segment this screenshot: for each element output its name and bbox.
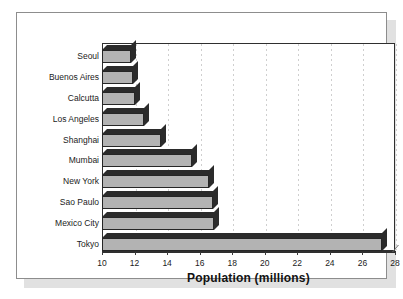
tick-label: 10 [97,258,106,268]
bar-front-face [102,238,382,251]
category-label: Calcutta [19,93,99,103]
bar-front-face [102,175,209,188]
category-label: Tokyo [19,239,99,249]
bar [102,149,192,162]
tick-mark [232,252,233,255]
bar-front-face [102,196,213,209]
bar [102,233,382,246]
bar-side-face [214,207,219,230]
bar-side-face [131,40,136,63]
tick-label: 20 [260,258,269,268]
bar-front-face [102,134,161,147]
category-label: Buenos Aires [19,72,99,82]
bar-front-face [102,113,144,126]
bar [102,129,161,142]
y-axis-category-labels: SeoulBuenos AiresCalcuttaLos AngelesShan… [17,43,99,251]
bar [102,170,209,183]
category-label: Seoul [19,51,99,61]
bar-side-face [144,103,149,126]
tick-mark [395,252,396,255]
tick-label: 28 [390,258,399,268]
tick-mark [265,252,266,255]
bar-side-face [161,124,166,147]
bar-front-face [102,217,214,230]
tick-label: 16 [195,258,204,268]
chart-page: SeoulBuenos AiresCalcuttaLos AngelesShan… [0,0,403,299]
tick-mark [330,252,331,255]
bar-side-face [133,61,138,84]
tick-label: 18 [227,258,236,268]
bar-side-face [135,82,140,105]
tick-mark [135,252,136,255]
tick-mark [167,252,168,255]
tick-label: 14 [162,258,171,268]
tick-label: 12 [130,258,139,268]
tick-mark [200,252,201,255]
category-label: Shanghai [19,135,99,145]
bar [102,191,213,204]
bar [102,212,214,225]
x-axis-title: Population (millions) [102,271,395,285]
gridline [396,44,397,250]
category-label: Sao Paulo [19,197,99,207]
tick-mark [362,252,363,255]
category-label: Los Angeles [19,114,99,124]
tick-mark [102,252,103,255]
tick-label: 22 [293,258,302,268]
bar-front-face [102,154,192,167]
bar-side-face [192,144,197,167]
bar-side-face [213,186,218,209]
tick-mark [297,252,298,255]
bar-series [102,43,395,251]
bar [102,66,133,79]
x-axis-baseline [102,251,396,253]
tick-label: 26 [358,258,367,268]
bar-side-face [209,165,214,188]
bar-front-face [102,50,131,63]
bar-front-face [102,71,133,84]
chart-card: SeoulBuenos AiresCalcuttaLos AngelesShan… [16,12,387,279]
bar [102,108,144,121]
bar-front-face [102,92,135,105]
bar [102,87,135,100]
category-label: Mumbai [19,155,99,165]
bar-side-face [382,228,387,251]
x-axis-ticks: 10121416182022242628 [102,255,395,269]
category-label: Mexico City [19,218,99,228]
tick-label: 24 [325,258,334,268]
bar [102,45,131,58]
category-label: New York [19,176,99,186]
